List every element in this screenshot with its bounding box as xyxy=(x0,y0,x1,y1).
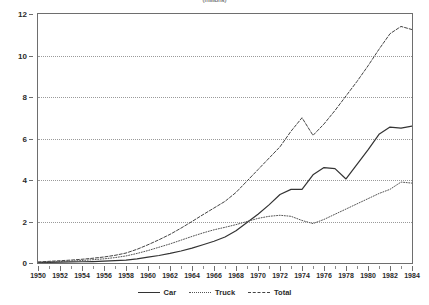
legend-swatch-icon xyxy=(138,292,160,293)
y-tick-mark xyxy=(29,222,33,223)
x-tick-mark xyxy=(368,266,369,271)
plot-area xyxy=(37,13,413,264)
x-tick-mark xyxy=(390,266,391,271)
y-tick-label: 12 xyxy=(18,10,27,19)
x-tick-label: 1950 xyxy=(30,272,46,279)
x-tick-label: 1966 xyxy=(206,272,222,279)
x-tick-mark-minor xyxy=(225,266,226,269)
x-tick-mark xyxy=(258,266,259,271)
series-line-truck xyxy=(38,182,412,262)
x-tick-mark-minor xyxy=(49,266,50,269)
x-tick-label: 1960 xyxy=(140,272,156,279)
legend-label: Total xyxy=(274,288,291,297)
x-tick-mark-minor xyxy=(269,266,270,269)
x-tick-mark-minor xyxy=(71,266,72,269)
y-axis: 024681012 xyxy=(0,13,33,264)
legend-swatch-icon xyxy=(189,292,211,293)
x-tick-label: 1974 xyxy=(294,272,310,279)
y-tick-mark xyxy=(29,180,33,181)
legend-swatch-icon xyxy=(248,292,270,293)
x-tick-mark xyxy=(302,266,303,271)
x-tick-mark xyxy=(192,266,193,271)
legend-entry-truck[interactable]: Truck xyxy=(189,288,235,297)
legend-entry-total[interactable]: Total xyxy=(248,288,291,297)
x-tick-mark xyxy=(38,266,39,271)
chart-title: (millions) xyxy=(0,0,429,3)
x-tick-mark xyxy=(148,266,149,271)
x-tick-mark-minor xyxy=(115,266,116,269)
x-tick-label: 1958 xyxy=(118,272,134,279)
x-tick-mark xyxy=(170,266,171,271)
x-tick-mark-minor xyxy=(247,266,248,269)
y-tick-label: 8 xyxy=(23,93,27,102)
y-tick-label: 6 xyxy=(23,134,27,143)
y-tick-mark xyxy=(29,263,33,264)
legend: CarTruckTotal xyxy=(0,288,429,297)
x-tick-mark xyxy=(214,266,215,271)
x-tick-label: 1952 xyxy=(52,272,68,279)
x-tick-mark-minor xyxy=(313,266,314,269)
x-tick-label: 1954 xyxy=(74,272,90,279)
x-tick-mark xyxy=(104,266,105,271)
x-tick-label: 1978 xyxy=(338,272,354,279)
x-tick-label: 1956 xyxy=(96,272,112,279)
x-tick-mark xyxy=(82,266,83,271)
x-tick-mark xyxy=(126,266,127,271)
x-tick-label: 1984 xyxy=(404,272,420,279)
y-tick-mark xyxy=(29,56,33,57)
x-tick-label: 1980 xyxy=(360,272,376,279)
x-tick-label: 1972 xyxy=(272,272,288,279)
legend-entry-car[interactable]: Car xyxy=(138,288,177,297)
x-tick-mark-minor xyxy=(137,266,138,269)
x-axis: 1950195219541956195819601962196419661968… xyxy=(37,266,413,282)
y-tick-mark xyxy=(29,97,33,98)
legend-label: Car xyxy=(164,288,177,297)
y-tick-label: 10 xyxy=(18,51,27,60)
y-tick-label: 2 xyxy=(23,217,27,226)
y-tick-mark xyxy=(29,14,33,15)
series-line-car xyxy=(38,126,412,263)
x-tick-mark-minor xyxy=(159,266,160,269)
x-tick-mark-minor xyxy=(291,266,292,269)
x-tick-label: 1982 xyxy=(382,272,398,279)
y-tick-mark xyxy=(29,139,33,140)
x-tick-mark-minor xyxy=(335,266,336,269)
x-tick-mark xyxy=(346,266,347,271)
series-lines xyxy=(38,14,412,263)
x-tick-mark xyxy=(412,266,413,271)
x-tick-label: 1962 xyxy=(162,272,178,279)
x-tick-mark-minor xyxy=(93,266,94,269)
x-tick-mark-minor xyxy=(181,266,182,269)
x-tick-mark-minor xyxy=(401,266,402,269)
x-tick-mark xyxy=(236,266,237,271)
x-tick-mark xyxy=(280,266,281,271)
legend-label: Truck xyxy=(215,288,235,297)
x-tick-label: 1970 xyxy=(250,272,266,279)
x-tick-mark xyxy=(60,266,61,271)
x-tick-label: 1968 xyxy=(228,272,244,279)
y-tick-label: 4 xyxy=(23,176,27,185)
x-tick-mark xyxy=(324,266,325,271)
y-tick-label: 0 xyxy=(23,259,27,268)
x-tick-mark-minor xyxy=(357,266,358,269)
x-tick-label: 1964 xyxy=(184,272,200,279)
x-tick-mark-minor xyxy=(203,266,204,269)
x-tick-label: 1976 xyxy=(316,272,332,279)
x-tick-mark-minor xyxy=(379,266,380,269)
chart-figure: (millions) 024681012 1950195219541956195… xyxy=(0,0,429,305)
series-line-total xyxy=(38,26,412,262)
